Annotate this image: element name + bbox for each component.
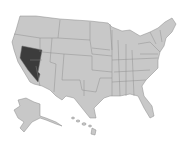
state-alaska bbox=[14, 98, 62, 132]
state-hawaii bbox=[72, 117, 97, 135]
us-map bbox=[0, 0, 190, 142]
